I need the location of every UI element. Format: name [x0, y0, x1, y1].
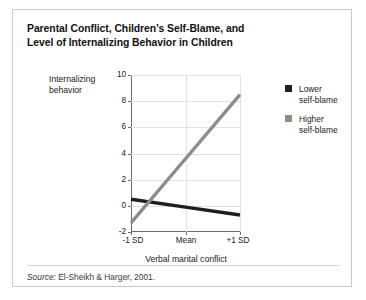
y-tick-label-4: 4	[121, 150, 126, 158]
y-tick-label-10: 10	[117, 71, 126, 79]
source-keyword: Source:	[27, 272, 56, 282]
legend-swatch-icon-lower	[285, 85, 292, 92]
y-tick-label-6: 6	[121, 123, 126, 131]
figure-card: Parental Conflict, Children's Self-Blame…	[12, 9, 352, 287]
source-divider	[27, 265, 339, 266]
x-tick-label-neg1sd: -1 SD	[123, 236, 144, 245]
legend-swatch-icon-higher	[285, 115, 292, 122]
legend-item-lower-self-blame: Lower self-blame	[285, 84, 357, 105]
legend-item-higher-self-blame: Higher self-blame	[285, 114, 357, 135]
legend-label-lower-line-2: self-blame	[299, 95, 357, 106]
y-axis-label: Internalizing behavior	[49, 74, 127, 95]
title-line-1: Parental Conflict, Children's Self-Blame…	[27, 22, 327, 36]
series-line-higher-self-blame	[131, 95, 240, 223]
y-tick-label-0: 0	[121, 202, 126, 210]
y-tick-label-neg2: -2	[119, 228, 126, 236]
legend-label-higher-line-1: Higher	[299, 114, 357, 125]
x-tickmark-mean	[186, 232, 187, 235]
y-axis-label-line-1: Internalizing	[49, 74, 127, 85]
source-note: Source: El-Sheikh & Harger, 2001.	[27, 272, 155, 282]
y-tick-label-2: 2	[121, 176, 126, 184]
title-line-2: Level of Internalizing Behavior in Child…	[27, 36, 327, 50]
plot-area: 10 8 6 4 2 0 -2 -1 SD Mean +1 SD	[131, 75, 241, 232]
series-overlay	[131, 75, 241, 232]
source-citation: El-Sheikh & Harger, 2001.	[56, 272, 155, 282]
x-tickmark-plus1sd	[240, 232, 241, 235]
y-tick-label-8: 8	[121, 97, 126, 105]
x-tick-label-mean: Mean	[176, 236, 196, 245]
page-title: Parental Conflict, Children's Self-Blame…	[27, 22, 327, 50]
chart-legend: Lower self-blame Higher self-blame	[285, 84, 357, 144]
legend-label-higher-line-2: self-blame	[299, 125, 357, 136]
x-tickmark-neg1sd	[131, 232, 132, 235]
x-tick-label-plus1sd: +1 SD	[227, 236, 250, 245]
legend-label-lower-line-1: Lower	[299, 84, 357, 95]
x-axis-label: Verbal marital conflict	[131, 254, 241, 264]
y-axis-label-line-2: behavior	[49, 85, 127, 96]
